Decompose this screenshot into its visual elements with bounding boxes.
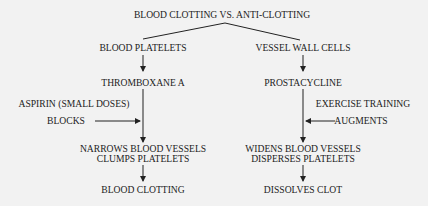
outcome-blood-clotting: BLOOD CLOTTING: [101, 185, 184, 195]
modifier-aspirin-line2: BLOCKS: [47, 116, 85, 126]
branch-line-right: [225, 23, 300, 40]
node-prostacycline: PROSTACYCLINE: [264, 78, 342, 88]
clotting-diagram: BLOOD CLOTTING VS. ANTI-CLOTTING BLOOD P…: [0, 0, 428, 206]
modifier-aspirin-line1: ASPIRIN (SMALL DOSES): [18, 99, 129, 109]
modifier-exercise-line2: AUGMENTS: [334, 116, 387, 126]
modifier-exercise-line1: EXERCISE TRAINING: [316, 99, 410, 109]
node-vessel-wall-cells: VESSEL WALL CELLS: [255, 43, 350, 53]
diagram-title: BLOOD CLOTTING VS. ANTI-CLOTTING: [134, 10, 310, 20]
outcome-dissolves-clot: DISSOLVES CLOT: [264, 185, 342, 195]
node-thromboxane: THROMBOXANE A: [101, 78, 184, 88]
effect-clumps-line2: CLUMPS PLATELETS: [97, 154, 189, 164]
node-blood-platelets: BLOOD PLATELETS: [99, 43, 186, 53]
effect-disperses-line2: DISPERSES PLATELETS: [251, 154, 355, 164]
branch-line-left: [143, 23, 225, 39]
